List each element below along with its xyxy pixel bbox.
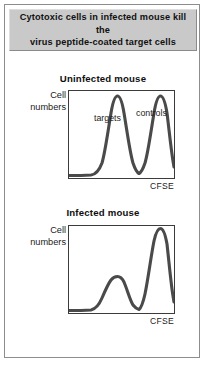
- panel-heading-uninfected: Uninfected mouse: [0, 73, 206, 84]
- y-axis-label-line-1: Cell: [50, 90, 66, 100]
- panel-heading-infected: Infected mouse: [0, 207, 206, 218]
- plot-area-uninfected: [68, 90, 175, 179]
- peak-label-controls: controls: [136, 108, 167, 118]
- y-axis-label-line-2: numbers: [30, 102, 66, 112]
- y-axis-label-line-2: numbers: [30, 237, 66, 247]
- plot-area-infected: [68, 225, 175, 314]
- figure-title-line-2: virus peptide-coated target cells: [30, 37, 176, 47]
- figure-title-band: Cytotoxic cells in infected mouse kill t…: [9, 9, 197, 51]
- histogram-curve-uninfected: [69, 91, 174, 178]
- figure-title: Cytotoxic cells in infected mouse kill t…: [10, 11, 196, 49]
- figure-container: Cytotoxic cells in infected mouse kill t…: [0, 0, 206, 366]
- y-axis-label-line-1: Cell: [50, 225, 66, 235]
- y-axis-label-uninfected: Cell numbers: [12, 90, 66, 113]
- x-axis-label-uninfected: CFSE: [150, 181, 174, 191]
- peak-label-targets: targets: [94, 113, 121, 123]
- figure-title-line-1: Cytotoxic cells in infected mouse kill t…: [20, 12, 187, 35]
- y-axis-label-infected: Cell numbers: [12, 225, 66, 248]
- x-axis-label-infected: CFSE: [150, 316, 174, 326]
- histogram-curve-infected: [69, 226, 174, 313]
